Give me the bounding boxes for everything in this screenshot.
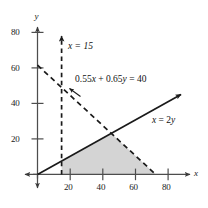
coordinate-plot bbox=[0, 0, 208, 208]
label-budget-coef-x: 0.55 bbox=[75, 74, 92, 84]
label-ray-var-y: y bbox=[171, 115, 175, 125]
label-budget-plus: + 0.65 bbox=[96, 74, 123, 84]
x-tick-label-80: 80 bbox=[162, 182, 171, 192]
y-tick-label-40: 40 bbox=[11, 98, 20, 108]
x-tick-label-60: 60 bbox=[129, 182, 138, 192]
label-budget-equation: 0.55x + 0.65y = 40 bbox=[75, 74, 146, 84]
x-tick-label-20: 20 bbox=[64, 182, 73, 192]
label-budget-rhs: = 40 bbox=[127, 74, 147, 84]
label-x-equals-15-text: x = 15 bbox=[68, 41, 93, 51]
y-axis-label: y bbox=[35, 11, 39, 21]
y-tick-label-80: 80 bbox=[11, 27, 20, 37]
label-x-equals-2y: x = 2y bbox=[152, 115, 175, 125]
y-tick-label-60: 60 bbox=[11, 63, 20, 73]
y-tick-label-20: 20 bbox=[11, 134, 20, 144]
x-tick-label-40: 40 bbox=[97, 182, 106, 192]
label-ray-equals-2: = 2 bbox=[156, 115, 171, 125]
graph-figure: 80 60 40 20 20 40 60 80 y x x = 15 0.55x… bbox=[0, 0, 208, 208]
x-axis-label: x bbox=[194, 168, 198, 178]
label-x-equals-15: x = 15 bbox=[68, 41, 93, 51]
